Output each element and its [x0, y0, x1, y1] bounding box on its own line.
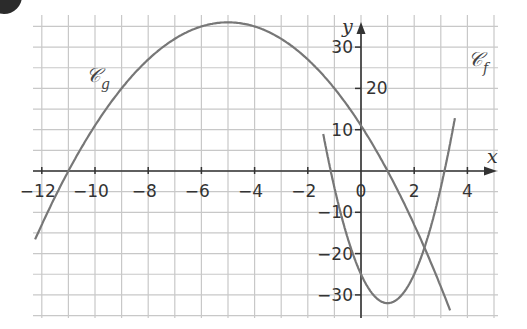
function-graph: −12−10−8−6−4−2024−30−20−10102030xy 𝒞g𝒞f [0, 0, 527, 329]
y-tick-label: −20 [317, 244, 353, 264]
y-axis-arrow-icon [357, 22, 366, 34]
x-tick-label: −4 [238, 181, 263, 201]
y-tick-label: 10 [331, 120, 353, 140]
x-tick-label: 4 [462, 181, 473, 201]
curve-g-subscript: g [101, 76, 110, 92]
x-axis-arrow-icon [484, 167, 497, 176]
curve-labels: 𝒞g𝒞f [86, 47, 491, 92]
x-tick-label: 0 [356, 181, 367, 201]
x-tick-label: −8 [132, 181, 157, 201]
grid-lines [33, 15, 498, 318]
curve-f-label: 𝒞f [468, 47, 491, 76]
y-tick-label: 20 [366, 78, 388, 98]
y-tick-label: 30 [331, 37, 353, 57]
y-tick-label: −30 [317, 285, 353, 305]
axes [33, 22, 497, 318]
x-axis-label: x [487, 145, 498, 167]
x-tick-label: −2 [291, 181, 316, 201]
x-tick-label: −10 [73, 181, 109, 201]
tick-labels: −12−10−8−6−4−2024−30−20−10102030xy [20, 15, 498, 305]
x-tick-label: −6 [185, 181, 210, 201]
y-axis-label: y [341, 15, 353, 37]
x-tick-label: −12 [20, 181, 56, 201]
x-tick-label: 2 [409, 181, 420, 201]
y-tick-label: −10 [317, 202, 353, 222]
